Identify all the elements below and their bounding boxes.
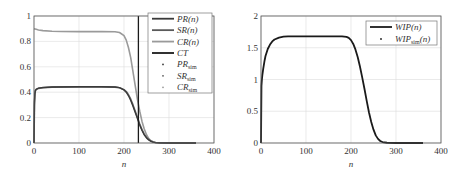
x-tick-label: 0 — [32, 146, 37, 156]
x-tick-label: 400 — [434, 146, 448, 156]
legend-dot-icon — [380, 38, 382, 40]
x-tick-label: 300 — [162, 146, 176, 156]
y-tick-label: 1.5 — [247, 43, 259, 53]
y-tick-label: 0 — [27, 138, 32, 148]
chart-wip: 010020030040000.511.52 n WIP(n)WIPsim(n) — [247, 11, 449, 169]
x-tick-label: 300 — [389, 146, 403, 156]
legend: PR(n)SR(n)CR(n)CTPRsimSRsimCRsim — [148, 13, 212, 93]
x-tick-label: 0 — [259, 146, 264, 156]
y-tick-label: 0.5 — [247, 106, 259, 116]
legend-dot-icon — [162, 75, 164, 77]
legend-label: WIP(n) — [395, 22, 422, 32]
y-tick-label: 2 — [254, 11, 259, 21]
x-axis-label: n — [349, 159, 354, 169]
x-tick-label: 200 — [117, 146, 131, 156]
series-line — [261, 36, 423, 143]
x-tick-label: 400 — [207, 146, 221, 156]
legend-label: SR(n) — [177, 25, 198, 35]
x-tick-label: 100 — [299, 146, 313, 156]
legend-dot-icon — [162, 86, 164, 88]
legend-label: CR(n) — [177, 37, 199, 47]
data-series — [261, 36, 423, 143]
legend-label: PR(n) — [176, 14, 199, 24]
y-tick-label: 0.2 — [20, 113, 31, 123]
y-tick-label: 0 — [254, 138, 259, 148]
x-tick-label: 200 — [344, 146, 358, 156]
y-tick-label: 0.8 — [20, 36, 32, 46]
y-tick-label: 1 — [254, 75, 259, 85]
y-tick-label: 0.4 — [20, 87, 32, 97]
y-tick-label: 0.6 — [20, 62, 32, 72]
y-tick-label: 1 — [27, 11, 32, 21]
series-line — [34, 87, 196, 143]
legend-label: CT — [177, 48, 189, 58]
x-tick-label: 100 — [72, 146, 86, 156]
x-axis-label: n — [122, 159, 127, 169]
chart-rates: 010020030040000.20.40.60.81 n PR(n)SR(n)… — [20, 11, 222, 169]
legend-dot-icon — [162, 64, 164, 66]
figure: 010020030040000.20.40.60.81 n PR(n)SR(n)… — [0, 0, 463, 178]
legend: WIP(n)WIPsim(n) — [366, 21, 437, 45]
series-line — [34, 87, 196, 143]
